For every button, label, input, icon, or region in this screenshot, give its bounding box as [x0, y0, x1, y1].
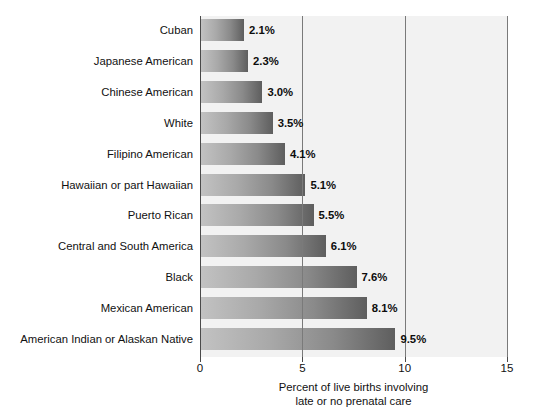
bar: [201, 81, 262, 103]
bar-value-label: 5.1%: [310, 174, 336, 196]
category-label: Filipino American: [0, 143, 193, 165]
x-axis-label-line1: Percent of live births involving: [200, 380, 507, 394]
bar: [201, 143, 285, 165]
x-tick-label: 5: [282, 362, 322, 374]
bar-row: Japanese American2.3%: [0, 50, 537, 81]
bar-fill: [201, 174, 305, 196]
bar-fill: [201, 143, 285, 165]
bar-fill: [201, 328, 395, 350]
bar: [201, 174, 305, 196]
category-label: Hawaiian or part Hawaiian: [0, 174, 193, 196]
bar-fill: [201, 204, 314, 226]
bar: [201, 328, 395, 350]
bar-fill: [201, 112, 273, 134]
category-label: Central and South America: [0, 235, 193, 257]
bar: [201, 112, 273, 134]
bar-fill: [201, 235, 326, 257]
category-label: Cuban: [0, 19, 193, 41]
bar-value-label: 9.5%: [400, 328, 426, 350]
bar: [201, 266, 357, 288]
gridline-15: [507, 16, 508, 357]
gridline-10: [405, 16, 406, 357]
category-label: American Indian or Alaskan Native: [0, 328, 193, 350]
bar-row: White3.5%: [0, 112, 537, 143]
bar-value-label: 2.3%: [253, 50, 279, 72]
bar-value-label: 5.5%: [319, 204, 345, 226]
bar-row: Puerto Rican5.5%: [0, 204, 537, 235]
y-axis-line: [200, 16, 201, 357]
bar-row: American Indian or Alaskan Native9.5%: [0, 328, 537, 359]
bar-row: Central and South America6.1%: [0, 235, 537, 266]
bar-value-label: 8.1%: [372, 297, 398, 319]
bar-value-label: 3.0%: [267, 81, 293, 103]
bar-value-label: 4.1%: [290, 143, 316, 165]
bar-fill: [201, 50, 248, 72]
category-label: Japanese American: [0, 50, 193, 72]
bar: [201, 204, 314, 226]
category-label: Mexican American: [0, 297, 193, 319]
x-axis-label-line2: late or no prenatal care: [200, 394, 507, 408]
bar-row: Mexican American8.1%: [0, 297, 537, 328]
bar: [201, 235, 326, 257]
category-label: Black: [0, 266, 193, 288]
bar-chart: Cuban2.1%Japanese American2.3%Chinese Am…: [0, 0, 537, 415]
bar: [201, 50, 248, 72]
bar-fill: [201, 266, 357, 288]
x-tick-label: 0: [180, 362, 220, 374]
bar-fill: [201, 297, 367, 319]
bar-row: Cuban2.1%: [0, 19, 537, 50]
category-label: Puerto Rican: [0, 204, 193, 226]
bar: [201, 297, 367, 319]
bar-value-label: 7.6%: [362, 266, 388, 288]
x-tick-label: 15: [487, 362, 527, 374]
gridline-5: [302, 16, 303, 357]
bar-row: Filipino American4.1%: [0, 143, 537, 174]
bar-fill: [201, 81, 262, 103]
bar-row: Chinese American3.0%: [0, 81, 537, 112]
bar-value-label: 2.1%: [249, 19, 275, 41]
x-tick-label: 10: [385, 362, 425, 374]
bar: [201, 19, 244, 41]
bar-value-label: 3.5%: [278, 112, 304, 134]
category-label: Chinese American: [0, 81, 193, 103]
x-axis-label: Percent of live births involving late or…: [200, 380, 507, 408]
bar-row: Hawaiian or part Hawaiian5.1%: [0, 174, 537, 205]
bar-value-label: 6.1%: [331, 235, 357, 257]
bar-row: Black7.6%: [0, 266, 537, 297]
bar-fill: [201, 19, 244, 41]
category-label: White: [0, 112, 193, 134]
